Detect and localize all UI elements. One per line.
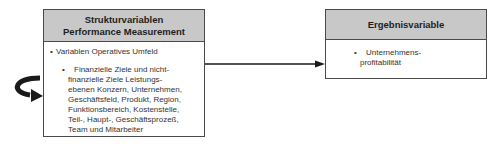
box-title-line2: Performance Measurement — [44, 26, 204, 38]
list-item-operative-environment: •Variablen Operatives Umfeld — [50, 47, 158, 57]
item-line: ebenen Konzern, Unternehmen, — [74, 85, 208, 95]
item-line: profitabilität — [366, 58, 486, 68]
structure-variables-header: Strukturvariablen Performance Measuremen… — [44, 10, 204, 42]
sub-list-item-goals: •Finanzielle Ziele und nicht- finanziell… — [68, 65, 208, 135]
item-line: Team und Mitarbeiter — [74, 125, 208, 135]
structure-variables-box: Strukturvariablen Performance Measuremen… — [43, 9, 205, 137]
item-text: Variablen Operatives Umfeld — [56, 47, 158, 56]
result-variable-header: Ergebnisvariable — [326, 10, 486, 40]
list-item-profitability: •Unternehmens- profitabilität — [360, 48, 486, 68]
item-line: Funktionsbereich, Kostenstelle, — [74, 105, 208, 115]
loop-arrow-icon — [17, 78, 43, 102]
result-variable-box: Ergebnisvariable •Unternehmens- profitab… — [325, 9, 487, 79]
arrow-head-icon — [315, 61, 325, 68]
item-line: finanzielle Ziele Leistungs- — [74, 75, 208, 85]
box-title-line1: Strukturvariablen — [44, 14, 204, 26]
item-line: Finanzielle Ziele und nicht- — [74, 65, 169, 74]
item-line: Geschäftsfeld, Produkt, Region, — [74, 95, 208, 105]
item-line: Teil-, Haupt-, Geschäftsprozeß, — [74, 115, 208, 125]
item-line: Unternehmens- — [366, 48, 421, 57]
